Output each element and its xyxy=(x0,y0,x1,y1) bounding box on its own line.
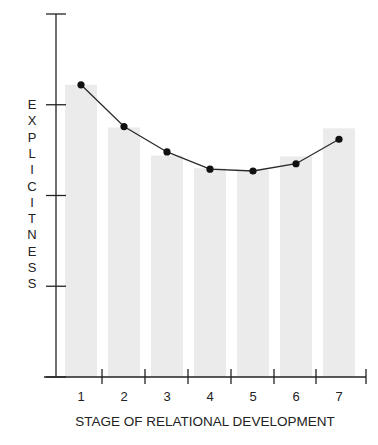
data-point xyxy=(292,160,299,167)
bar xyxy=(65,85,97,377)
bar xyxy=(108,127,140,377)
x-tick-label: 4 xyxy=(206,389,213,404)
bar xyxy=(323,128,355,377)
y-label-letter: E xyxy=(28,244,37,259)
y-label-letter: I xyxy=(30,195,34,210)
data-point xyxy=(249,167,256,174)
y-label-letter: C xyxy=(27,179,36,194)
y-label-letter: S xyxy=(28,260,37,275)
y-label-letter: I xyxy=(30,162,34,177)
y-label-letter: S xyxy=(28,276,37,291)
y-label-letter: E xyxy=(28,97,37,112)
data-point xyxy=(77,81,84,88)
x-axis-title: STAGE OF RELATIONAL DEVELOPMENT xyxy=(75,414,334,429)
bar xyxy=(151,156,183,377)
x-tick-label: 5 xyxy=(249,389,256,404)
chart: 1234567 STAGE OF RELATIONAL DEVELOPMENT … xyxy=(0,0,378,445)
x-tick-label: 1 xyxy=(77,389,84,404)
y-label-letter: L xyxy=(28,146,35,161)
x-tick-labels: 1234567 xyxy=(77,389,342,404)
x-tick-label: 7 xyxy=(335,389,342,404)
x-tick-label: 2 xyxy=(120,389,127,404)
bar-group xyxy=(65,85,355,377)
y-label-letter: N xyxy=(27,227,36,242)
bar xyxy=(237,170,269,377)
y-label-letter: T xyxy=(28,211,36,226)
y-label-letter: X xyxy=(28,113,37,128)
y-axis-title: EXPLICITNESS xyxy=(27,97,36,291)
data-point xyxy=(335,136,342,143)
data-point xyxy=(163,148,170,155)
x-tick-label: 6 xyxy=(292,389,299,404)
data-point xyxy=(206,166,213,173)
data-point xyxy=(120,123,127,130)
x-tick-label: 3 xyxy=(163,389,170,404)
bar xyxy=(194,168,226,377)
bar xyxy=(280,156,312,377)
y-label-letter: P xyxy=(28,130,37,145)
